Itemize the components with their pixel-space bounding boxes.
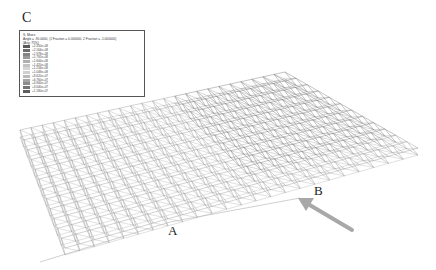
arrow-icon [298, 198, 352, 230]
panel-label-a: A [168, 223, 177, 239]
panel-label-b: B [314, 183, 323, 199]
truss-structure-view [0, 0, 436, 270]
